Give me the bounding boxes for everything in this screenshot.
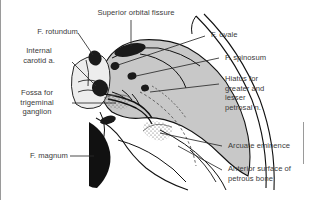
anatomy-figure: F. rotundum Superior orbital fissure F. … <box>0 0 310 200</box>
label-f-magnum: F. magnum <box>4 151 68 161</box>
label-anterior-surface-petrous: Anterior surface of petrous bone <box>228 164 310 183</box>
label-f-rotundum: F. rotundum <box>6 27 78 37</box>
label-hiatus-petrosal: Hiatus for greater and lesser petrosal n… <box>225 74 305 112</box>
label-arcuate-eminence: Arcuate eminence <box>228 141 308 151</box>
label-superior-orbital-fissure: Superior orbital fissure <box>82 8 190 18</box>
leader-f-rotundum <box>78 33 93 55</box>
label-fossa-trigeminal-ganglion: Fossa for trigeminal ganglion <box>4 88 70 117</box>
label-f-ovale: F. ovale <box>211 30 281 40</box>
label-f-spinosum: F. spinosum <box>225 53 301 63</box>
label-internal-carotid-a: Internal carotid a. <box>8 46 70 65</box>
f-magnum-shape <box>89 122 110 188</box>
